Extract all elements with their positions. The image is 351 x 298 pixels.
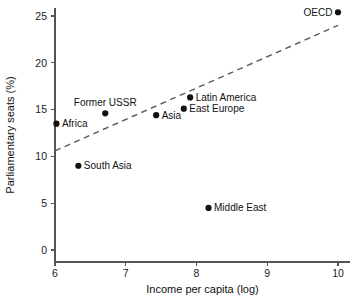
- data-point-label: OECD: [304, 7, 333, 18]
- y-tick-label: 5: [41, 197, 47, 209]
- plot-canvas: 0510152025 678910 AfricaSouth AsiaFormer…: [0, 0, 351, 298]
- data-point-label: East Europe: [189, 103, 244, 114]
- y-tick-label: 10: [35, 150, 47, 162]
- data-points-group: AfricaSouth AsiaFormer USSRAsiaEast Euro…: [53, 7, 341, 214]
- data-point-marker: [335, 9, 341, 15]
- x-axis-ticks: 678910: [52, 262, 344, 279]
- data-point-marker: [102, 110, 108, 116]
- data-point-marker: [187, 94, 193, 100]
- data-point-label: Former USSR: [74, 97, 137, 108]
- x-tick-label: 9: [264, 267, 270, 279]
- trend-line-group: [55, 25, 338, 150]
- x-axis-title: Income per capita (log): [146, 283, 259, 295]
- data-point-marker: [75, 163, 81, 169]
- data-point-label: Asia: [162, 110, 182, 121]
- data-point-marker: [53, 121, 59, 127]
- data-point-label: Latin America: [196, 92, 257, 103]
- y-axis-ticks: 0510152025: [35, 10, 55, 256]
- data-point-label: Middle East: [214, 202, 266, 213]
- x-tick-label: 10: [332, 267, 344, 279]
- data-point-label: Africa: [62, 118, 88, 129]
- y-tick-label: 0: [41, 244, 47, 256]
- y-tick-label: 25: [35, 10, 47, 22]
- x-tick-label: 6: [52, 267, 58, 279]
- scatter-plot-figure: 0510152025 678910 AfricaSouth AsiaFormer…: [0, 0, 351, 298]
- axes-group: [55, 8, 350, 262]
- data-point-label: South Asia: [84, 160, 132, 171]
- y-axis-title: Parliamentary seats (%): [4, 76, 16, 193]
- x-tick-label: 8: [194, 267, 200, 279]
- data-point-marker: [205, 205, 211, 211]
- data-point-marker: [181, 106, 187, 112]
- trend-line: [55, 25, 338, 150]
- data-point-marker: [153, 112, 159, 118]
- y-tick-label: 20: [35, 57, 47, 69]
- y-tick-label: 15: [35, 103, 47, 115]
- x-tick-label: 7: [123, 267, 129, 279]
